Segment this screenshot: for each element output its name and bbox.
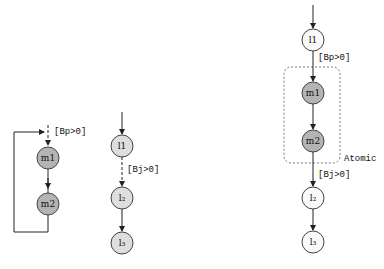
atomic-label: Atomic [344, 154, 376, 164]
guard-bottom-label: [Bj>0] [318, 170, 350, 180]
guard-top-label: [Bp>0] [318, 53, 350, 63]
node-l2-label: l₂ [119, 193, 126, 203]
node-m1-label: m1 [41, 153, 55, 163]
node-l3-label: l₃ [310, 237, 317, 247]
node-m1-label: m1 [306, 88, 320, 98]
node-m2-label: m2 [306, 136, 320, 146]
guard-label: [Bp>0] [54, 127, 86, 137]
flow-diagrams: [Bp>0] m1 m2 l1 [Bj>0] l₂ l₃ l1 [Bp>0] A… [0, 0, 384, 269]
node-m2-label: m2 [41, 199, 55, 209]
node-l2-label: l₂ [310, 193, 317, 203]
right-diagram: l1 [Bp>0] Atomic m1 m2 [Bj>0] l₂ l₃ [284, 5, 376, 253]
middle-diagram: l1 [Bj>0] l₂ l₃ [111, 112, 159, 254]
left-diagram: [Bp>0] m1 m2 [14, 125, 86, 232]
loop-back-edge [14, 132, 48, 232]
guard-label: [Bj>0] [127, 165, 159, 175]
diagram-canvas: [Bp>0] m1 m2 l1 [Bj>0] l₂ l₃ l1 [Bp>0] A… [0, 0, 384, 269]
node-l1-label: l1 [118, 141, 127, 151]
node-l3-label: l₃ [119, 238, 126, 248]
node-l1-label: l1 [309, 35, 318, 45]
